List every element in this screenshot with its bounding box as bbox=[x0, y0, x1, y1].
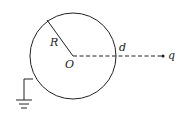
distance-label: d bbox=[119, 41, 126, 54]
ground-wire bbox=[24, 79, 33, 100]
sphere-diagram: R O d q bbox=[0, 0, 184, 125]
point-charge-dot bbox=[161, 54, 164, 57]
charge-label: q bbox=[168, 49, 175, 62]
diagram-canvas: R O d q bbox=[0, 0, 184, 125]
ground-symbol-icon bbox=[16, 100, 32, 108]
center-label: O bbox=[65, 58, 74, 71]
radius-label: R bbox=[49, 36, 58, 49]
